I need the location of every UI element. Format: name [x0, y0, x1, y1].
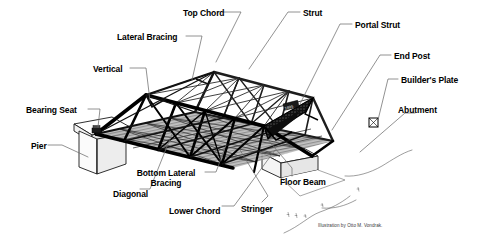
label-stringer: Stringer — [241, 205, 273, 215]
label-diagonal: Diagonal — [113, 190, 148, 200]
label-top-chord: Top Chord — [183, 9, 224, 19]
label-pier: Pier — [31, 142, 47, 152]
label-strut: Strut — [303, 9, 322, 19]
label-lateral-bracing: Lateral Bracing — [117, 33, 177, 43]
label-lower-chord: Lower Chord — [169, 207, 220, 217]
builders-plate-marker — [369, 118, 378, 127]
label-bottom-lateral-bracing: Bottom Lateral Bracing — [120, 169, 212, 188]
label-bearing-seat: Bearing Seat — [26, 106, 77, 116]
illustration-credit: Illustration by Otto M. Vondrak. — [318, 223, 382, 228]
truss-bridge-diagram: 1895 — [0, 0, 485, 247]
label-floor-beam: Floor Beam — [280, 178, 326, 188]
label-vertical: Vertical — [93, 65, 122, 75]
label-end-post: End Post — [394, 52, 430, 62]
bearing-seat-detail — [92, 126, 101, 134]
pier-structure — [74, 117, 130, 174]
label-builders-plate: Builder's Plate — [401, 76, 458, 86]
label-abutment: Abutment — [398, 106, 437, 116]
label-portal-strut: Portal Strut — [355, 21, 400, 31]
